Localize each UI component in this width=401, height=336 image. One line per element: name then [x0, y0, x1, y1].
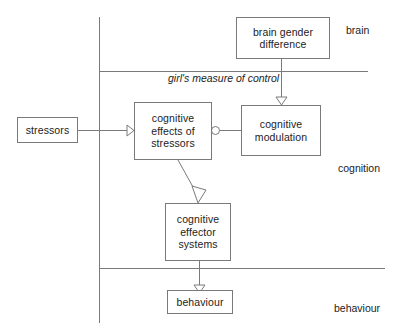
node-stressors-label: stressors: [26, 124, 70, 137]
node-behaviour[interactable]: behaviour: [167, 290, 233, 314]
node-cognitive-effector-systems-label-line1: cognitive: [177, 213, 219, 226]
node-brain-gender-difference-label-line2: difference: [253, 38, 313, 51]
node-cognitive-effector-systems-label-line3: systems: [177, 238, 219, 251]
arrowhead-open-triangle-into-effector-systems: [192, 186, 206, 203]
arrowhead-open-circle-at-cognitive-effects: [212, 127, 220, 135]
edge-label-girls-measure-line2: of control: [236, 72, 279, 84]
diagram-canvas: stressors brain gender difference cognit…: [0, 0, 401, 336]
node-cognitive-modulation-label-line1: cognitive: [255, 118, 307, 131]
node-behaviour-label: behaviour: [176, 296, 223, 309]
arrowhead-open-triangle-into-cognitive-modulation: [276, 97, 287, 105]
node-brain-gender-difference-label-line1: brain gender: [253, 26, 313, 39]
node-cognitive-effects-label-line3: stressors: [151, 137, 195, 150]
arrowhead-open-triangle-into-cognitive-effects: [127, 125, 134, 136]
zone-label-behaviour: behaviour: [334, 302, 380, 314]
node-cognitive-effector-systems-label-line2: effector: [177, 226, 219, 239]
node-stressors[interactable]: stressors: [17, 117, 78, 143]
node-cognitive-modulation-label-line2: modulation: [255, 131, 307, 144]
edge-label-girls-measure-line1: girl's measure: [168, 72, 233, 84]
zone-label-cognition: cognition: [338, 162, 380, 174]
node-cognitive-modulation[interactable]: cognitive modulation: [241, 105, 321, 156]
node-cognitive-effector-systems[interactable]: cognitive effector systems: [165, 203, 231, 261]
node-cognitive-effects-of-stressors[interactable]: cognitive effects of stressors: [134, 102, 212, 160]
edge-label-girls-measure-of-control: girl's measure of control: [168, 72, 258, 85]
node-cognitive-effects-label-line2: effects of: [151, 125, 195, 138]
node-brain-gender-difference[interactable]: brain gender difference: [236, 17, 330, 59]
zone-label-brain: brain: [346, 24, 369, 36]
node-cognitive-effects-label-line1: cognitive: [151, 112, 195, 125]
